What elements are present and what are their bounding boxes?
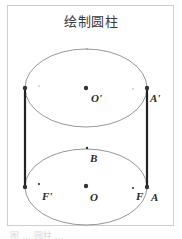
figure-caption: 图 … 圆柱 … (10, 229, 180, 239)
diagram-title: 绘制圆柱 (0, 11, 182, 30)
point-F (132, 187, 134, 189)
label-A-prime: A' (150, 93, 160, 104)
point-O-prime (84, 86, 88, 90)
cylinder-figure: 绘制圆柱 O' A' B F' O F A 图 … 圆柱 … (0, 0, 182, 239)
point-top-apex (86, 48, 88, 50)
point-A-prime (145, 86, 149, 90)
point-bottom-left (23, 185, 27, 189)
point-A (145, 185, 149, 189)
label-A: A (151, 192, 158, 203)
label-F-prime: F' (42, 191, 52, 202)
point-F-prime (38, 183, 40, 185)
point-top-left (23, 86, 27, 90)
point-O (84, 184, 88, 188)
label-O-prime: O' (91, 93, 102, 104)
cylinder-drawing (0, 0, 182, 239)
point-B (86, 147, 88, 149)
label-B: B (90, 153, 97, 164)
focus-top-right (132, 88, 134, 90)
label-F: F (136, 191, 143, 202)
focus-top-left (38, 85, 40, 87)
label-O: O (90, 192, 98, 203)
